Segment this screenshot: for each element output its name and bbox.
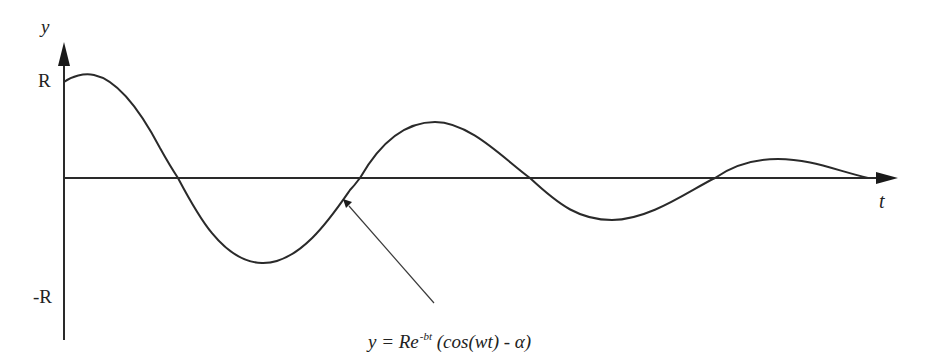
annotation-arrow-line <box>349 206 434 303</box>
y-axis-arrowhead-icon <box>58 42 70 66</box>
annotation-arrowhead-icon <box>343 199 352 208</box>
equation-lhs: y = Re <box>368 331 419 352</box>
x-axis-label: t <box>879 190 885 213</box>
equation-exponent: -bt <box>420 330 432 342</box>
tick-label-neg-r: -R <box>33 286 52 308</box>
tick-label-r: R <box>38 70 51 92</box>
damped-oscillation-diagram <box>0 0 935 363</box>
damped-oscillation-curve <box>64 74 868 263</box>
y-axis-label: y <box>41 16 49 38</box>
x-axis-arrowhead-icon <box>876 172 898 184</box>
equation-rhs: (cos(wt) - α) <box>432 331 531 352</box>
equation-label: y = Re-bt (cos(wt) - α) <box>368 330 531 353</box>
